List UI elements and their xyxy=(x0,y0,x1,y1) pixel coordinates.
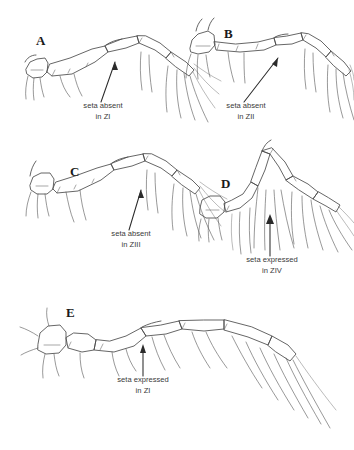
panel-e-drawing xyxy=(20,308,336,428)
panel-a-drawing xyxy=(25,36,221,122)
annotation-b-line1: seta absent xyxy=(226,101,266,110)
figure-container: A seta absent in ZI xyxy=(0,0,354,450)
panel-letter-d: D xyxy=(221,176,230,191)
panel-e-arrowhead xyxy=(140,344,146,353)
annotation-c-line1: seta absent xyxy=(111,229,151,238)
panel-letter-b: B xyxy=(224,26,233,41)
panel-b-drawing xyxy=(186,18,354,120)
annotation-a-line2: in ZI xyxy=(96,112,111,121)
panel-c-drawing xyxy=(26,154,227,240)
annotation-b-line2: in ZII xyxy=(238,112,255,121)
panel-letter-e: E xyxy=(66,305,75,320)
panel-letter-c: C xyxy=(70,164,79,179)
panel-d-drawing xyxy=(199,140,354,256)
panel-letter-a: A xyxy=(36,33,46,48)
annotation-e-line1: seta expressed xyxy=(117,375,169,384)
annotation-d-line1: seta expressed xyxy=(246,255,298,264)
annotation-e-line2: in ZI xyxy=(136,386,151,395)
annotation-c-line2: in ZIII xyxy=(122,240,141,249)
annotation-d-line2: in ZIV xyxy=(262,266,283,275)
annotation-a-line1: seta absent xyxy=(83,101,123,110)
